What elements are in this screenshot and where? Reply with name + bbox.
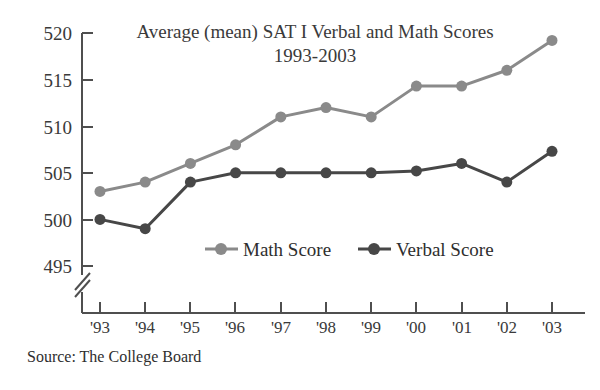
y-tick-label-515: 515 [44,70,73,91]
data-point-verbal-score-95[interactable] [185,177,196,188]
y-axis-ticks [82,33,93,266]
x-tick-label-00: '00 [406,318,426,337]
data-point-verbal-score-94[interactable] [140,223,151,234]
x-tick-label-93: '93 [90,318,110,337]
y-axis-tick-labels: 520 515 510 505 500 495 [44,23,73,277]
data-point-verbal-score-96[interactable] [230,167,241,178]
data-point-math-score-95[interactable] [185,158,196,169]
legend-item-math[interactable]: Math Score [205,239,331,260]
data-point-math-score-97[interactable] [275,111,286,122]
x-axis-tick-labels: '93 '94 '95 '96 '97 '98 '99 '00 '01 '02 … [90,318,562,337]
chart-page: 520 515 510 505 500 495 [0,0,600,390]
legend-math-marker-icon [215,243,227,255]
chart-legend: Math Score Verbal Score [205,239,494,260]
x-axis-ticks [100,302,552,313]
source-note: Source: The College Board [27,348,201,366]
data-point-math-score-94[interactable] [140,177,151,188]
data-point-math-score-01[interactable] [456,81,467,92]
x-tick-label-96: '96 [225,318,245,337]
chart-title: Average (mean) SAT I Verbal and Math Sco… [136,21,493,43]
legend-verbal-marker-icon [368,243,380,255]
y-tick-label-510: 510 [44,117,73,138]
x-tick-label-94: '94 [135,318,156,337]
data-point-verbal-score-93[interactable] [95,214,106,225]
x-tick-label-01: '01 [452,318,472,337]
x-tick-label-03: '03 [542,318,562,337]
x-tick-label-02: '02 [497,318,517,337]
legend-verbal-label: Verbal Score [396,239,494,260]
series-line-verbal-score [100,151,552,228]
x-tick-label-99: '99 [361,318,381,337]
y-tick-label-500: 500 [44,210,73,231]
data-point-verbal-score-03[interactable] [547,146,558,157]
y-tick-label-495: 495 [44,256,73,277]
data-point-math-score-00[interactable] [411,81,422,92]
legend-item-verbal[interactable]: Verbal Score [358,239,494,260]
legend-math-label: Math Score [243,239,331,260]
data-point-math-score-98[interactable] [321,102,332,113]
data-point-verbal-score-98[interactable] [321,167,332,178]
data-point-verbal-score-01[interactable] [456,158,467,169]
data-point-math-score-99[interactable] [366,111,377,122]
data-point-math-score-96[interactable] [230,139,241,150]
y-tick-label-520: 520 [44,23,73,44]
data-point-math-score-02[interactable] [501,65,512,76]
sat-scores-line-chart: 520 515 510 505 500 495 [0,0,600,390]
x-tick-label-98: '98 [316,318,336,337]
data-point-math-score-93[interactable] [95,186,106,197]
data-point-math-score-03[interactable] [547,35,558,46]
chart-title-group: Average (mean) SAT I Verbal and Math Sco… [136,21,493,66]
x-tick-label-97: '97 [271,318,292,337]
x-tick-label-95: '95 [180,318,200,337]
chart-subtitle: 1993-2003 [274,45,356,66]
data-point-verbal-score-97[interactable] [275,167,286,178]
data-point-verbal-score-02[interactable] [501,177,512,188]
y-tick-label-505: 505 [44,163,73,184]
data-point-verbal-score-00[interactable] [411,165,422,176]
data-point-verbal-score-99[interactable] [366,167,377,178]
